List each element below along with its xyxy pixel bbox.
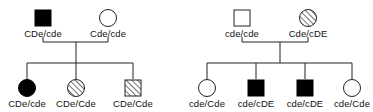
genotype-label-father-1: CDe/cde: [24, 29, 62, 39]
pedigree-diagram: [0, 0, 373, 112]
genotype-label-child: CDe/cde: [8, 99, 46, 109]
child-carrier-circle: [68, 80, 85, 97]
genotype-label-child: cde/cDE: [287, 99, 324, 109]
genotype-label-child: CDe/Cde: [56, 99, 96, 109]
child-affected-square: [297, 80, 313, 96]
genotype-label-mother-2: Cde/cDE: [289, 29, 328, 39]
child-affected-circle: [19, 80, 36, 97]
genotype-label-mother-1: Cde/cde: [90, 29, 126, 39]
father-affected-square: [35, 10, 51, 26]
child-affected-square: [248, 80, 264, 96]
genotype-label-child: cde/Cde: [334, 99, 370, 109]
child-unaffected-circle: [199, 80, 216, 97]
father-unaffected-square: [234, 10, 250, 26]
mother-unaffected-circle: [100, 10, 117, 27]
genotype-label-child: cde/Cde: [189, 99, 225, 109]
mother-carrier-circle: [300, 10, 317, 27]
genotype-label-child: CDe/Cde: [113, 99, 153, 109]
family-2: [199, 10, 361, 97]
child-unaffected-circle: [344, 80, 361, 97]
family-1: [19, 10, 142, 97]
genotype-label-child: cde/cDE: [238, 99, 275, 109]
genotype-label-father-2: cde/cde: [225, 29, 259, 39]
child-carrier-square: [125, 80, 141, 96]
